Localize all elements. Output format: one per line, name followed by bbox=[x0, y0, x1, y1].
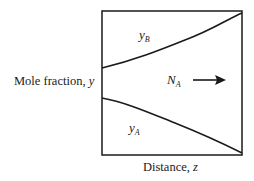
x-axis-label-text: Distance, bbox=[143, 160, 193, 174]
x-axis-label: Distance, z bbox=[143, 160, 198, 175]
flux-subscript: A bbox=[176, 80, 181, 89]
curve-label-yA: yA bbox=[129, 120, 140, 136]
flux-arrow-icon bbox=[193, 75, 226, 85]
curve-yB bbox=[102, 13, 242, 68]
curve-symbol: y bbox=[139, 27, 145, 42]
curve-yA bbox=[102, 98, 242, 153]
curve-subscript: A bbox=[135, 128, 140, 137]
curve-label-yB: yB bbox=[139, 27, 150, 43]
y-axis-label-text: Mole fraction, bbox=[14, 74, 89, 88]
curve-subscript: B bbox=[145, 35, 150, 44]
diagram-canvas bbox=[0, 0, 254, 181]
flux-symbol: N bbox=[167, 72, 176, 87]
flux-label: NA bbox=[167, 72, 181, 88]
y-axis-variable: y bbox=[89, 74, 95, 88]
x-axis-variable: z bbox=[193, 160, 198, 174]
y-axis-label: Mole fraction, y bbox=[14, 74, 94, 89]
curve-symbol: y bbox=[129, 120, 135, 135]
